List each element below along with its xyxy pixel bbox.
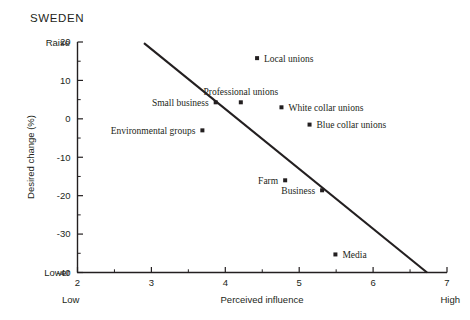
point-label: Blue collar unions xyxy=(317,120,387,130)
trend-line xyxy=(144,43,427,272)
y-tick-label: -10 xyxy=(57,152,71,163)
point-label: Small business xyxy=(152,98,209,108)
y-axis-bottom-label: Lower xyxy=(44,267,70,278)
point-marker xyxy=(279,105,283,109)
x-tick-label: 3 xyxy=(149,277,154,288)
y-axis-title: Desired change (%) xyxy=(25,115,36,199)
point-label: Environmental groups xyxy=(111,126,196,136)
point-label: Farm xyxy=(258,176,279,186)
chart-title: SWEDEN xyxy=(30,12,84,24)
point-marker xyxy=(214,100,218,104)
data-points-group: Local unionsSmall businessProfessional u… xyxy=(111,54,387,260)
y-tick-label: 10 xyxy=(60,75,71,86)
chart-canvas: SWEDEN 20100-10-20-30-40 Desired change … xyxy=(0,0,470,320)
data-point: Media xyxy=(333,250,367,260)
data-point: Farm xyxy=(258,176,287,186)
data-point: Environmental groups xyxy=(111,126,205,136)
x-tick-label: 6 xyxy=(370,277,375,288)
data-point: White collar unions xyxy=(279,103,363,113)
y-tick-label: -20 xyxy=(57,190,71,201)
trend-line-segment xyxy=(144,43,427,272)
data-point: Blue collar unions xyxy=(308,120,387,130)
y-tick-label: 0 xyxy=(65,113,70,124)
scatter-chart: SWEDEN 20100-10-20-30-40 Desired change … xyxy=(0,0,470,320)
x-axis-high-label: High xyxy=(440,294,460,305)
data-point: Small business xyxy=(152,98,218,108)
point-marker xyxy=(308,123,312,127)
point-marker xyxy=(200,128,204,132)
point-label: Media xyxy=(342,250,367,260)
data-point: Local unions xyxy=(255,54,314,64)
data-point: Business xyxy=(281,186,324,196)
x-axis: 234567 Perceived influence Low High xyxy=(62,267,460,305)
y-axis: 20100-10-20-30-40 Desired change (%) Rai… xyxy=(25,36,83,278)
x-tick-label: 7 xyxy=(444,277,449,288)
point-marker xyxy=(239,100,243,104)
point-label: Local unions xyxy=(264,54,314,64)
y-axis-top-label: Raise xyxy=(46,37,70,48)
x-tick-label: 4 xyxy=(223,277,228,288)
point-label: White collar unions xyxy=(288,103,363,113)
x-tick-label: 2 xyxy=(75,277,80,288)
point-marker xyxy=(255,56,259,60)
point-label: Business xyxy=(281,186,315,196)
x-tick-label: 5 xyxy=(297,277,302,288)
point-marker xyxy=(283,178,287,182)
x-axis-title: Perceived influence xyxy=(221,294,304,305)
point-marker xyxy=(333,252,337,256)
y-tick-label: -30 xyxy=(57,228,71,239)
point-marker xyxy=(320,188,324,192)
point-label: Professional unions xyxy=(203,87,278,97)
x-axis-low-label: Low xyxy=(62,294,80,305)
